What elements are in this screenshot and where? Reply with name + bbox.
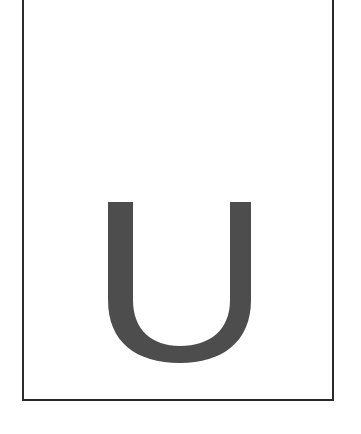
letter-u-glyph xyxy=(0,0,361,434)
letter-u-shape xyxy=(108,202,251,363)
